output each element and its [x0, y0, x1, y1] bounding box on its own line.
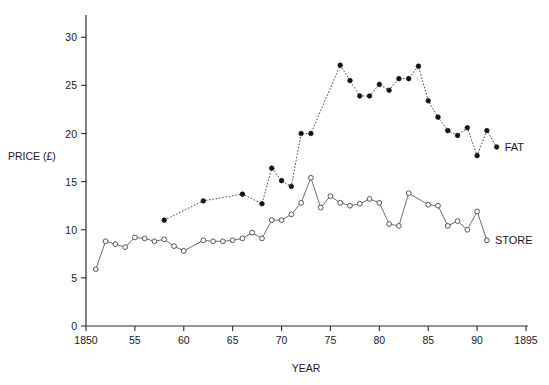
data-point-store	[348, 203, 353, 208]
data-point-store	[172, 244, 177, 249]
data-point-store	[484, 238, 489, 243]
data-point-store	[465, 227, 470, 232]
data-point-fat	[494, 145, 499, 150]
axes-group	[81, 15, 528, 331]
data-point-store	[142, 236, 147, 241]
y-tick-label: 25	[65, 79, 77, 91]
data-point-store	[230, 238, 235, 243]
data-point-fat	[162, 218, 167, 223]
data-point-fat	[357, 94, 362, 99]
data-point-store	[357, 201, 362, 206]
data-point-store	[260, 236, 265, 241]
data-point-fat	[406, 76, 411, 81]
data-point-store	[377, 200, 382, 205]
data-point-fat	[289, 184, 294, 189]
series-label-store: STORE	[495, 234, 533, 246]
data-point-store	[162, 237, 167, 242]
data-point-store	[181, 249, 186, 254]
x-tick-label: 65	[227, 334, 239, 346]
data-point-fat	[279, 178, 284, 183]
data-point-store	[201, 238, 206, 243]
data-point-fat	[475, 153, 480, 158]
y-tick-label: 15	[65, 176, 77, 188]
data-point-fat	[338, 63, 343, 68]
data-point-fat	[397, 76, 402, 81]
data-point-store	[123, 245, 128, 250]
data-point-fat	[485, 128, 490, 133]
data-point-fat	[260, 201, 265, 206]
x-tick-label: 80	[373, 334, 385, 346]
series-label-fat: FAT	[505, 141, 525, 153]
x-tick-label: 70	[276, 334, 288, 346]
data-point-store	[396, 224, 401, 229]
data-point-store	[318, 205, 323, 210]
data-point-fat	[465, 125, 470, 130]
data-point-store	[269, 218, 274, 223]
data-point-store	[406, 191, 411, 196]
data-point-store	[445, 224, 450, 229]
data-point-store	[279, 218, 284, 223]
data-point-store	[240, 236, 245, 241]
data-point-store	[436, 203, 441, 208]
y-tick-label: 10	[65, 224, 77, 236]
data-point-store	[132, 235, 137, 240]
data-point-store	[387, 222, 392, 227]
data-point-fat	[309, 131, 314, 136]
x-tick-label: 85	[422, 334, 434, 346]
data-point-store	[475, 209, 480, 214]
x-tick-label: 1895	[514, 334, 538, 346]
y-tick-label: 5	[71, 272, 77, 284]
data-point-store	[113, 242, 118, 247]
x-tick-label: 1850	[74, 334, 98, 346]
data-point-fat	[387, 88, 392, 93]
data-point-store	[289, 212, 294, 217]
data-point-store	[308, 175, 313, 180]
data-point-fat	[455, 133, 460, 138]
y-tick-label: 20	[65, 128, 77, 140]
x-tick-label: 60	[178, 334, 190, 346]
data-point-store	[220, 239, 225, 244]
data-point-fat	[348, 78, 353, 83]
data-point-fat	[367, 94, 372, 99]
data-point-store	[103, 239, 108, 244]
labels-group: 185055606570758085901895051015202530YEAR…	[8, 31, 538, 374]
data-point-store	[367, 197, 372, 202]
data-point-store	[299, 200, 304, 205]
data-point-fat	[299, 131, 304, 136]
x-axis-title: YEAR	[292, 362, 321, 374]
x-tick-label: 75	[325, 334, 337, 346]
chart-page: 185055606570758085901895051015202530YEAR…	[0, 0, 549, 385]
data-point-fat	[269, 166, 274, 171]
data-point-fat	[436, 115, 441, 120]
data-point-store	[250, 230, 255, 235]
y-axis-title: PRICE (£)	[8, 150, 56, 162]
data-point-fat	[240, 192, 245, 197]
series-line-store	[96, 178, 487, 269]
data-point-fat	[377, 82, 382, 87]
data-point-store	[328, 194, 333, 199]
data-point-store	[152, 239, 157, 244]
data-point-fat	[201, 199, 206, 204]
x-tick-label: 90	[471, 334, 483, 346]
y-tick-label: 0	[71, 320, 77, 332]
series-group	[93, 63, 499, 272]
data-point-store	[93, 267, 98, 272]
data-point-store	[455, 219, 460, 224]
price-year-line-chart: 185055606570758085901895051015202530YEAR…	[0, 0, 549, 385]
data-point-fat	[426, 98, 431, 103]
data-point-fat	[416, 64, 421, 69]
data-point-fat	[445, 128, 450, 133]
x-tick-label: 55	[129, 334, 141, 346]
data-point-store	[338, 200, 343, 205]
data-point-store	[426, 202, 431, 207]
data-point-store	[211, 239, 216, 244]
y-tick-label: 30	[65, 31, 77, 43]
